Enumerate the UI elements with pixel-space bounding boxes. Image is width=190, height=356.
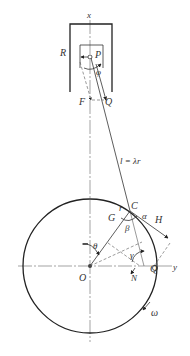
label-phi: φ <box>96 67 101 77</box>
label-N: N <box>130 273 138 283</box>
perpendicular-dashed <box>90 242 142 266</box>
label-C: C <box>131 200 138 211</box>
label-H: H <box>154 214 163 225</box>
gamma-arc <box>132 251 144 262</box>
connecting-rod <box>91 58 130 211</box>
label-omega: ω <box>151 307 158 318</box>
label-y-axis: y <box>172 262 177 272</box>
force-F-line <box>80 62 91 100</box>
label-r: r <box>119 203 123 213</box>
label-R: R <box>59 47 66 58</box>
label-alpha: α <box>142 211 147 221</box>
label-P: P <box>94 49 101 60</box>
label-x-axis: x <box>86 10 91 20</box>
label-O: O <box>79 272 86 283</box>
label-gamma: γ <box>130 250 134 260</box>
label-G: G <box>108 212 115 223</box>
label-Q-top: Q <box>105 96 113 107</box>
slider-crank-diagram: x y R P φ F Q l = λr C r G α H β θ γ O N… <box>0 0 190 356</box>
label-theta: θ <box>93 241 98 251</box>
label-rod-length: l = λr <box>120 156 141 166</box>
label-beta: β <box>124 223 130 233</box>
label-F: F <box>78 96 86 107</box>
label-Q-bottom: Q <box>150 263 158 274</box>
